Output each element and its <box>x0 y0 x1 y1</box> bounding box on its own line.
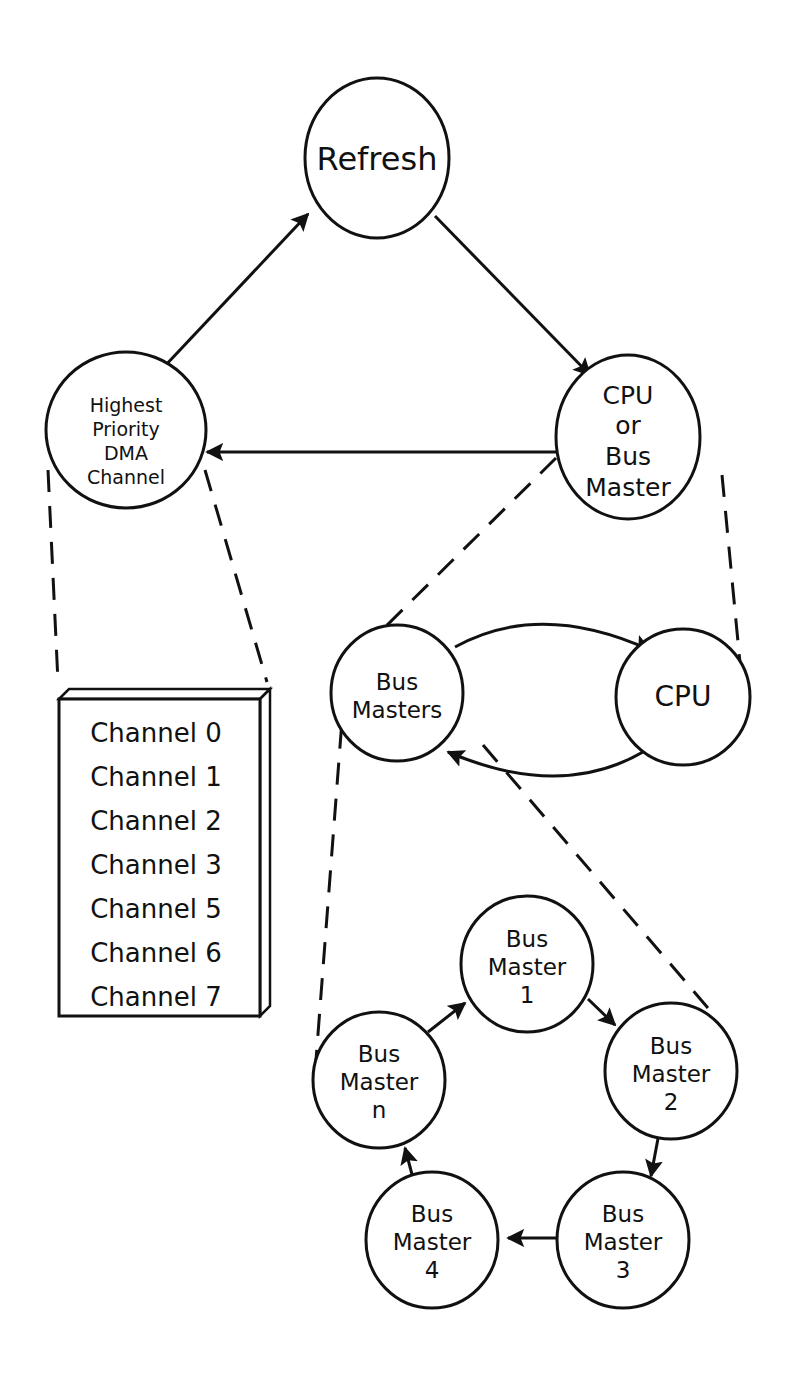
node-bus-master-1: Bus Master 1 <box>461 896 593 1032</box>
svg-text:CPU: CPU <box>655 680 712 713</box>
svg-text:n: n <box>372 1097 387 1123</box>
svg-text:Master: Master <box>584 1229 663 1255</box>
channel-item: Channel 2 <box>90 806 222 836</box>
node-highest-priority-dma-channel: Highest Priority DMA Channel <box>46 352 206 508</box>
svg-text:DMA: DMA <box>104 442 148 464</box>
node-cpu: CPU <box>616 629 750 765</box>
arbitration-diagram: Refresh Highest Priority DMA Channel CPU… <box>0 0 794 1383</box>
edge-bus-master-2-to-3 <box>651 1133 659 1176</box>
edge-cpu-to-bus-masters <box>448 752 643 776</box>
edge-refresh-to-cpu-or-bus-master <box>435 216 590 375</box>
channel-item: Channel 3 <box>90 850 222 880</box>
svg-text:Priority: Priority <box>92 418 160 440</box>
node-refresh: Refresh <box>305 78 449 238</box>
svg-text:4: 4 <box>425 1257 440 1283</box>
node-label: Refresh <box>317 140 438 178</box>
svg-text:Master: Master <box>340 1069 419 1095</box>
svg-text:Master: Master <box>393 1229 472 1255</box>
svg-text:Bus: Bus <box>605 442 651 471</box>
node-bus-master-n: Bus Master n <box>313 1012 445 1148</box>
svg-text:1: 1 <box>520 982 535 1008</box>
node-bus-master-3: Bus Master 3 <box>557 1172 689 1308</box>
edge-bus-master-n-to-1 <box>428 1003 465 1032</box>
svg-text:Bus: Bus <box>650 1033 692 1059</box>
svg-text:CPU: CPU <box>603 381 654 410</box>
node-bus-master-2: Bus Master 2 <box>605 1003 737 1139</box>
channel-item: Channel 6 <box>90 938 222 968</box>
svg-text:or: or <box>615 411 641 440</box>
svg-text:2: 2 <box>664 1089 679 1115</box>
node-bus-masters: Bus Masters <box>331 625 463 761</box>
channel-item: Channel 1 <box>90 762 222 792</box>
channel-item: Channel 7 <box>90 982 222 1012</box>
svg-text:Highest: Highest <box>90 394 163 416</box>
node-cpu-or-bus-master: CPU or Bus Master <box>556 355 700 519</box>
channel-list-box: Channel 0 Channel 1 Channel 2 Channel 3 … <box>59 689 270 1016</box>
svg-text:Bus: Bus <box>358 1041 400 1067</box>
node-bus-master-4: Bus Master 4 <box>366 1172 498 1308</box>
channel-item: Channel 0 <box>90 718 222 748</box>
svg-text:3: 3 <box>616 1257 631 1283</box>
svg-text:Master: Master <box>488 954 567 980</box>
svg-text:Bus: Bus <box>506 926 548 952</box>
svg-text:Bus: Bus <box>411 1201 453 1227</box>
svg-text:Bus: Bus <box>376 669 418 695</box>
edge-bus-masters-to-cpu <box>455 624 650 650</box>
edge-highest-to-refresh <box>163 214 308 368</box>
svg-text:Channel: Channel <box>87 466 165 488</box>
channel-item: Channel 5 <box>90 894 222 924</box>
svg-text:Master: Master <box>632 1061 711 1087</box>
svg-text:Bus: Bus <box>602 1201 644 1227</box>
svg-text:Masters: Masters <box>352 697 443 723</box>
edge-bus-master-1-to-2 <box>588 999 615 1025</box>
svg-text:Master: Master <box>585 473 671 502</box>
